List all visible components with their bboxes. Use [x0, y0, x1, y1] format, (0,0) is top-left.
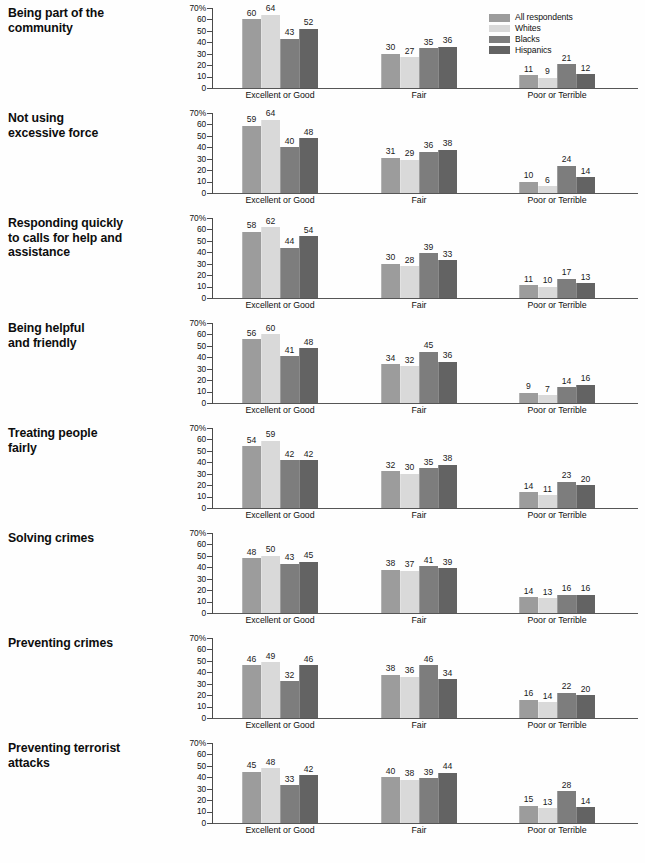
legend-label: Hispanics — [515, 46, 551, 55]
bar[interactable] — [242, 126, 261, 193]
bar[interactable] — [280, 460, 299, 508]
bar[interactable] — [280, 356, 299, 403]
bar[interactable] — [538, 808, 557, 823]
bar[interactable] — [538, 495, 557, 508]
bar[interactable] — [557, 482, 576, 508]
bar[interactable] — [280, 39, 299, 88]
y-axis-tick-label: 50 — [180, 237, 206, 245]
bar[interactable] — [576, 807, 595, 823]
bar[interactable] — [280, 564, 299, 613]
bar-wrapper: 14 — [519, 428, 538, 508]
y-axis-tick — [207, 54, 213, 55]
bar[interactable] — [299, 460, 318, 508]
bar[interactable] — [261, 120, 280, 193]
bar[interactable] — [299, 775, 318, 823]
bar[interactable] — [419, 253, 438, 298]
bar[interactable] — [557, 387, 576, 403]
bar[interactable] — [576, 177, 595, 193]
x-axis-line — [212, 613, 638, 614]
bar[interactable] — [242, 19, 261, 88]
bar[interactable] — [299, 348, 318, 403]
bar[interactable] — [419, 468, 438, 508]
bar[interactable] — [438, 568, 457, 613]
bar[interactable] — [438, 465, 457, 508]
bar[interactable] — [299, 138, 318, 193]
bar[interactable] — [280, 248, 299, 298]
bar[interactable] — [381, 471, 400, 508]
bar[interactable] — [299, 29, 318, 88]
bar[interactable] — [519, 285, 538, 298]
bar[interactable] — [519, 806, 538, 823]
bar[interactable] — [519, 492, 538, 508]
bar[interactable] — [381, 364, 400, 403]
bar[interactable] — [519, 75, 538, 88]
bar[interactable] — [400, 366, 419, 403]
bar[interactable] — [381, 777, 400, 823]
bar[interactable] — [576, 485, 595, 508]
bar[interactable] — [381, 675, 400, 718]
bar[interactable] — [400, 160, 419, 193]
bar[interactable] — [280, 147, 299, 193]
bar[interactable] — [299, 236, 318, 298]
bar[interactable] — [538, 598, 557, 613]
y-axis-tick-label: 50 — [180, 552, 206, 560]
bar[interactable] — [557, 693, 576, 718]
bar[interactable] — [438, 362, 457, 403]
bar[interactable] — [438, 679, 457, 718]
bar[interactable] — [576, 74, 595, 88]
bars: 56604148 — [242, 323, 318, 403]
bar[interactable] — [242, 772, 261, 823]
bar[interactable] — [538, 395, 557, 403]
bar[interactable] — [242, 446, 261, 508]
bar[interactable] — [538, 186, 557, 193]
bar[interactable] — [242, 232, 261, 298]
bar[interactable] — [381, 54, 400, 88]
bar[interactable] — [400, 57, 419, 88]
bar[interactable] — [261, 15, 280, 88]
bar[interactable] — [438, 260, 457, 298]
bar[interactable] — [400, 266, 419, 298]
bar[interactable] — [400, 571, 419, 613]
bar[interactable] — [400, 780, 419, 823]
bar[interactable] — [557, 595, 576, 613]
y-axis-tick-label: 10 — [180, 492, 206, 500]
bar[interactable] — [538, 78, 557, 88]
legend-item[interactable]: All respondents — [489, 13, 639, 23]
bar[interactable] — [261, 556, 280, 613]
legend-item[interactable]: Whites — [489, 24, 639, 34]
bar[interactable] — [381, 264, 400, 298]
bar[interactable] — [242, 558, 261, 613]
bar[interactable] — [242, 339, 261, 403]
bar[interactable] — [519, 393, 538, 403]
bar[interactable] — [419, 566, 438, 613]
bar[interactable] — [400, 474, 419, 508]
bar[interactable] — [242, 665, 261, 718]
bar[interactable] — [438, 47, 457, 88]
y-axis-tick — [207, 766, 213, 767]
bar[interactable] — [280, 785, 299, 823]
bar[interactable] — [419, 48, 438, 88]
bar[interactable] — [576, 695, 595, 718]
bar[interactable] — [419, 778, 438, 823]
bar[interactable] — [576, 385, 595, 403]
bar[interactable] — [576, 283, 595, 298]
legend-item[interactable]: Blacks — [489, 35, 639, 45]
bar[interactable] — [519, 700, 538, 718]
bar[interactable] — [538, 287, 557, 298]
bar[interactable] — [381, 570, 400, 613]
y-axis-tick-label: 70% — [180, 529, 206, 537]
bar[interactable] — [438, 773, 457, 823]
bar[interactable] — [299, 562, 318, 613]
bar[interactable] — [538, 702, 557, 718]
bar[interactable] — [299, 665, 318, 718]
legend-item[interactable]: Hispanics — [489, 45, 639, 55]
bar[interactable] — [280, 681, 299, 718]
bar-wrapper: 14 — [576, 113, 595, 193]
bar[interactable] — [519, 597, 538, 613]
bar[interactable] — [438, 150, 457, 193]
bar[interactable] — [381, 158, 400, 193]
bar[interactable] — [400, 677, 419, 718]
bar[interactable] — [419, 152, 438, 193]
bar[interactable] — [576, 595, 595, 613]
bar-wrapper: 22 — [557, 638, 576, 718]
